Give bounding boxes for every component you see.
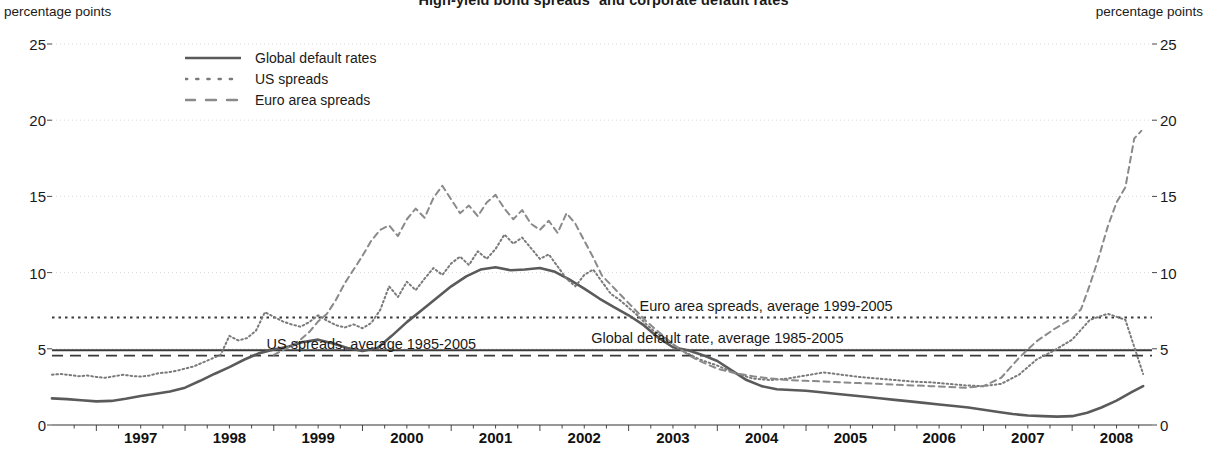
legend-key-solid (185, 52, 241, 64)
x-tick-1998: 1998 (213, 429, 246, 446)
y-tick-left-15: 15 (2, 188, 46, 205)
x-tick-1999: 1999 (301, 429, 334, 446)
x-tick-2007: 2007 (1011, 429, 1044, 446)
legend-key-dotted (185, 73, 241, 85)
y-tick-right-0: 0 (1160, 417, 1204, 434)
y-tick-left-25: 25 (2, 36, 46, 53)
x-tick-1997: 1997 (124, 429, 157, 446)
series-line-us-spreads (52, 235, 1143, 387)
y-tick-left-20: 20 (2, 112, 46, 129)
x-tick-2005: 2005 (834, 429, 867, 446)
y-tick-left-5: 5 (2, 340, 46, 357)
x-tick-2002: 2002 (568, 429, 601, 446)
chart-figure: High-yield bond spreads¹ and corporate d… (0, 0, 1207, 453)
x-tick-2006: 2006 (922, 429, 955, 446)
y-tick-left-0: 0 (2, 417, 46, 434)
x-tick-2008: 2008 (1100, 429, 1133, 446)
y-tick-right-20: 20 (1160, 112, 1204, 129)
y-tick-left-10: 10 (2, 264, 46, 281)
annotation-1: Global default rate, average 1985-2005 (591, 330, 843, 346)
legend-item-1: US spreads (185, 68, 376, 89)
y-tick-right-25: 25 (1160, 36, 1204, 53)
legend-label-1: US spreads (255, 71, 328, 87)
legend-item-0: Global default rates (185, 47, 376, 68)
legend-label-0: Global default rates (255, 50, 376, 66)
x-tick-2004: 2004 (745, 429, 778, 446)
legend-key-dashed (185, 94, 241, 106)
chart-legend: Global default ratesUS spreadsEuro area … (185, 47, 376, 110)
y-tick-right-5: 5 (1160, 340, 1204, 357)
x-tick-2003: 2003 (656, 429, 689, 446)
y-tick-right-15: 15 (1160, 188, 1204, 205)
annotation-2: US spreads, average 1985-2005 (267, 336, 477, 352)
legend-label-2: Euro area spreads (255, 92, 370, 108)
annotation-0: Euro area spreads, average 1999-2005 (640, 298, 893, 314)
y-tick-right-10: 10 (1160, 264, 1204, 281)
x-tick-2001: 2001 (479, 429, 512, 446)
x-tick-2000: 2000 (390, 429, 423, 446)
plot-area (0, 0, 1207, 453)
legend-item-2: Euro area spreads (185, 89, 376, 110)
